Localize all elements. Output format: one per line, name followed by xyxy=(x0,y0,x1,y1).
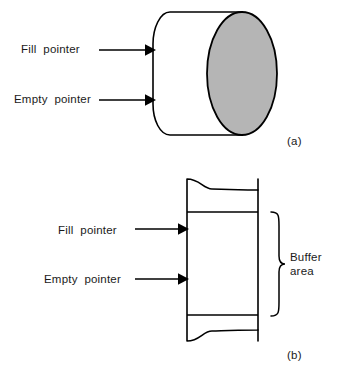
cylinder-front-face xyxy=(207,12,277,135)
label-buffer-area-line1: Buffer xyxy=(290,251,322,263)
panel-tag-a: (a) xyxy=(287,135,302,148)
arrow-fill-pointer-a xyxy=(99,44,156,56)
label-fill-pointer-a: Fill pointer xyxy=(21,43,80,56)
figure-root: Fill pointer Empty pointer (a) Fill poin… xyxy=(0,0,341,375)
arrow-empty-pointer-b xyxy=(135,273,189,285)
label-empty-pointer-b: Empty pointer xyxy=(44,273,121,286)
figure-canvas xyxy=(0,0,341,375)
panel-b-group xyxy=(135,179,285,341)
label-buffer-area: Bufferarea xyxy=(290,250,322,278)
panel-a-group xyxy=(99,12,277,135)
label-buffer-area-line2: area xyxy=(290,265,314,277)
panel-tag-b: (b) xyxy=(287,349,302,362)
buffer-area-brace xyxy=(271,212,285,316)
arrow-empty-pointer-a xyxy=(99,94,156,106)
label-fill-pointer-b: Fill pointer xyxy=(58,224,117,237)
buffer-outline xyxy=(187,179,258,341)
arrow-fill-pointer-b xyxy=(135,223,189,235)
label-empty-pointer-a: Empty pointer xyxy=(14,93,91,106)
